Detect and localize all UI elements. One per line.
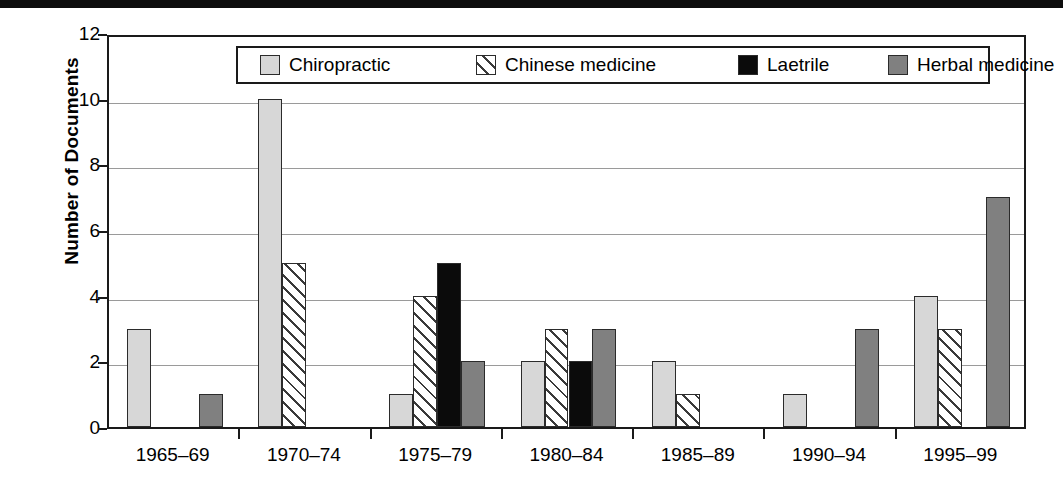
x-tick-label: 1985–89: [628, 444, 768, 466]
bar-chiropractic-1995-99: [914, 296, 938, 427]
legend-swatch-chiropractic-icon: [260, 55, 280, 75]
x-tick-label: 1990–94: [759, 444, 899, 466]
x-tick-label: 1975–79: [365, 444, 505, 466]
bar-herbal-medicine-1990-94: [855, 329, 879, 428]
y-tick-mark: [98, 428, 107, 430]
bar-chiropractic-1985-89: [652, 361, 676, 427]
x-tick-mark: [370, 429, 372, 439]
x-tick-label: 1980–84: [497, 444, 637, 466]
gridline: [109, 300, 1024, 301]
bar-chinese-medicine-1970-74: [282, 263, 306, 427]
bar-laetrile-1975-79: [437, 263, 461, 427]
y-tick-mark: [98, 362, 107, 364]
legend-item-chinese-medicine: Chinese medicine: [476, 48, 656, 82]
legend-item-chiropractic: Chiropractic: [260, 48, 390, 82]
gridline: [109, 234, 1024, 235]
legend-label: Chiropractic: [289, 54, 390, 76]
legend-swatch-herbal-medicine-icon: [888, 55, 908, 75]
legend-item-laetrile: Laetrile: [738, 48, 829, 82]
bar-chiropractic-1990-94: [783, 394, 807, 427]
legend-swatch-laetrile-icon: [738, 55, 758, 75]
x-tick-mark: [763, 429, 765, 439]
bar-herbal-medicine-1965-69: [199, 394, 223, 427]
x-tick-mark: [501, 429, 503, 439]
legend-swatch-chinese-medicine-icon: [476, 55, 496, 75]
y-tick-label: 0: [58, 417, 100, 439]
gridline: [109, 103, 1024, 104]
y-tick-mark: [98, 34, 107, 36]
y-tick-label: 2: [58, 351, 100, 373]
legend-label: Herbal medicine: [917, 54, 1054, 76]
page-edge-bar: [0, 0, 1063, 8]
bar-laetrile-1980-84: [569, 361, 593, 427]
x-tick-mark: [895, 429, 897, 439]
x-tick-label: 1970–74: [234, 444, 374, 466]
x-tick-label: 1965–69: [103, 444, 243, 466]
bar-chinese-medicine-1980-84: [545, 329, 569, 428]
bar-chiropractic-1965-69: [127, 329, 151, 428]
plot-area: [107, 35, 1026, 429]
bar-chiropractic-1980-84: [521, 361, 545, 427]
legend-item-herbal-medicine: Herbal medicine: [888, 48, 1054, 82]
bar-chinese-medicine-1975-79: [413, 296, 437, 427]
bar-chiropractic-1970-74: [258, 99, 282, 427]
x-tick-mark: [632, 429, 634, 439]
y-tick-mark: [98, 297, 107, 299]
gridline: [109, 168, 1024, 169]
chart-legend: ChiropracticChinese medicineLaetrileHerb…: [236, 46, 990, 84]
bar-chiropractic-1975-79: [389, 394, 413, 427]
y-tick-mark: [98, 165, 107, 167]
x-tick-mark: [238, 429, 240, 439]
bar-herbal-medicine-1980-84: [592, 329, 616, 428]
bar-herbal-medicine-1995-99: [986, 197, 1010, 427]
y-tick-mark: [98, 100, 107, 102]
y-axis-title: Number of Documents: [61, 11, 83, 311]
bar-chart-figure: Number of Documents 024681012 1965–69197…: [0, 0, 1063, 496]
y-tick-mark: [98, 231, 107, 233]
bar-herbal-medicine-1975-79: [461, 361, 485, 427]
x-tick-label: 1995–99: [890, 444, 1030, 466]
legend-label: Chinese medicine: [505, 54, 656, 76]
legend-label: Laetrile: [767, 54, 829, 76]
bar-chinese-medicine-1995-99: [938, 329, 962, 428]
bar-chinese-medicine-1985-89: [676, 394, 700, 427]
